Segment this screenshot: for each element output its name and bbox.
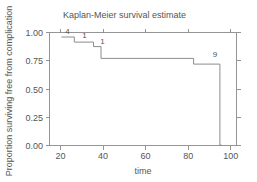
chart-title: Kaplan-Meier survival estimate <box>63 10 186 20</box>
y-tick-marks-right <box>237 33 241 146</box>
x-tick-label-20: 20 <box>55 151 65 161</box>
annotation-4: 4 <box>65 27 70 36</box>
km-survival-curve <box>62 37 222 145</box>
x-tick-label-40: 40 <box>98 151 108 161</box>
y-tick-label-1-00: 1.00 <box>25 28 43 38</box>
y-axis-title: Proportion surviving free from complicat… <box>4 6 14 177</box>
x-tick-label-80: 80 <box>183 151 193 161</box>
x-tick-label-60: 60 <box>141 151 151 161</box>
y-tick-label-0-25: 0.25 <box>25 113 43 123</box>
annotation-9: 9 <box>213 50 218 59</box>
annotation-1-first: 1 <box>82 31 87 40</box>
y-tick-label-0-00: 0.00 <box>25 141 43 151</box>
chart-screenshot: 1.00 0.75 0.50 0.25 0.00 20 40 60 80 100… <box>0 0 257 182</box>
y-tick-label-0-50: 0.50 <box>25 85 43 95</box>
x-axis-title: time <box>134 166 151 176</box>
annotation-1-second: 1 <box>100 37 105 46</box>
x-tick-marks <box>60 146 230 150</box>
x-tick-label-100: 100 <box>223 151 238 161</box>
kaplan-meier-plot: 1.00 0.75 0.50 0.25 0.00 20 40 60 80 100… <box>0 0 257 182</box>
y-tick-label-0-75: 0.75 <box>25 56 43 66</box>
y-tick-marks <box>46 33 50 146</box>
